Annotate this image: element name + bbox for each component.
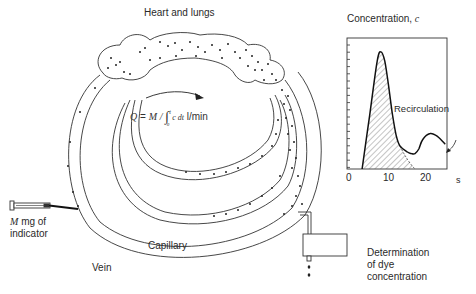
x-axis-unit: s xyxy=(456,174,461,186)
chart-title: Concentration, c xyxy=(347,13,419,25)
x-tick-0: 0 xyxy=(346,172,352,184)
heart-and-lungs xyxy=(98,33,284,84)
detector-label: Determination of dye concentration xyxy=(367,247,429,283)
recirculation-label: Recirculation xyxy=(394,103,449,115)
indicator-amount-label: M mg of indicator xyxy=(10,216,48,240)
dye-drops-icon xyxy=(308,265,311,277)
chart-title-text: Concentration, c xyxy=(347,13,419,24)
heart-and-lungs-label: Heart and lungs xyxy=(144,7,215,19)
capillary-label: Capillary xyxy=(148,240,187,252)
circulation-loop xyxy=(69,72,322,257)
vein-label: Vein xyxy=(92,262,111,274)
dye-detector xyxy=(298,212,347,261)
x-tick-10: 10 xyxy=(383,172,394,184)
flow-arrow-icon xyxy=(146,92,204,100)
cardiac-output-formula: Q = M / ∫t0 c dt l/min xyxy=(130,108,208,124)
x-tick-20: 20 xyxy=(420,172,431,184)
syringe-icon xyxy=(10,201,78,210)
